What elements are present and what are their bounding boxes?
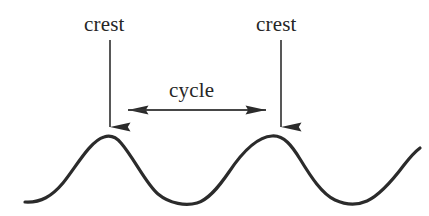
cycle-label: cycle [169,80,214,101]
wave-diagram-figure: crest crest cycle [0,0,429,216]
wave-diagram-canvas [0,0,429,216]
crest-right-label: crest [256,14,297,35]
crest-left-label: crest [84,14,125,35]
wave-curve [25,136,420,204]
